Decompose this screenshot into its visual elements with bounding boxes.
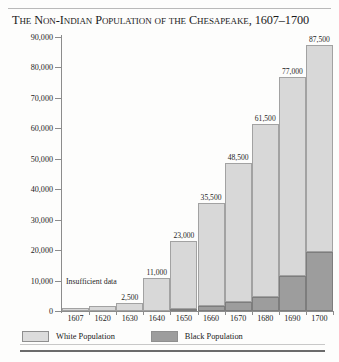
- bar-total-value-label: 2,500: [120, 293, 139, 302]
- y-axis-tick-label: 70,000: [9, 93, 53, 102]
- bar-group: 70023,000: [170, 37, 197, 311]
- x-axis-labels: 1607162016301640165016601670168016901700: [62, 314, 333, 330]
- bar-segment-black-population: [225, 302, 252, 311]
- bar-total-value-label: 87,500: [308, 35, 331, 44]
- x-axis-tick-label: 1690: [284, 314, 300, 323]
- y-axis-tick-mark: [55, 98, 62, 99]
- bar-segment-black-population: [252, 297, 279, 311]
- bar-group: 1,70035,500: [198, 37, 225, 311]
- y-axis-tick-label: 20,000: [9, 246, 53, 255]
- x-axis-tick-label: 1640: [149, 314, 165, 323]
- y-axis-tick-mark: [55, 128, 62, 129]
- bar-series-container: 2,50011,00070023,0001,70035,5003,00048,5…: [62, 37, 333, 311]
- bar-group: 19,50087,500: [306, 37, 333, 311]
- bar-segment-white-population: [252, 124, 279, 298]
- bar-group: [89, 37, 116, 311]
- bar-segment-white-population: [170, 241, 197, 309]
- x-axis-tick-label: 1660: [203, 314, 219, 323]
- y-axis-tick-label: 80,000: [9, 63, 53, 72]
- bar-total-value-label: 23,000: [172, 231, 195, 240]
- bar-segment-white-population: [89, 306, 116, 311]
- chart-figure: The Non-Indian Population of the Chesape…: [0, 0, 339, 362]
- bar-group: [62, 37, 89, 311]
- legend-item-white: White Population: [22, 331, 115, 342]
- bar-segment-black-population: [279, 276, 306, 311]
- y-axis-tick-label: 60,000: [9, 124, 53, 133]
- y-axis-tick-mark: [55, 220, 62, 221]
- bar-group: 11,50077,000: [279, 37, 306, 311]
- legend-label-white: White Population: [56, 332, 115, 341]
- white-population-swatch-icon: [22, 331, 49, 342]
- bar-segment-white-population: [279, 77, 306, 276]
- y-axis-tick-label: 10,000: [9, 276, 53, 285]
- y-axis-tick-label: 50,000: [9, 154, 53, 163]
- legend-item-black: Black Population: [151, 331, 243, 342]
- y-axis-tick-label: 0: [9, 307, 53, 316]
- insufficient-data-annotation: Insufficient data: [66, 277, 117, 286]
- bar-segment-white-population: [306, 45, 333, 252]
- y-axis-tick-mark: [55, 281, 62, 282]
- chart-legend: White Population Black Population: [22, 330, 243, 343]
- bar-total-value-label: 61,500: [254, 114, 277, 123]
- bar-segment-black-population: [306, 252, 333, 311]
- bar-segment-white-population: [62, 308, 89, 311]
- x-axis-tick-label: 1630: [122, 314, 138, 323]
- y-axis-tick-mark: [55, 189, 62, 190]
- bottom-divider: [20, 350, 325, 352]
- x-axis-tick-mark: [333, 311, 334, 315]
- y-axis-tick-mark: [55, 37, 62, 38]
- y-axis-tick-label: 30,000: [9, 215, 53, 224]
- legend-divider: [20, 344, 325, 345]
- y-axis-tick-label: 90,000: [9, 33, 53, 42]
- bar-total-value-label: 77,000: [281, 67, 304, 76]
- bar-group: 2,500: [116, 37, 143, 311]
- x-axis-tick-label: 1670: [230, 314, 246, 323]
- bar-segment-black-population: [170, 309, 197, 311]
- y-axis-tick-label: 40,000: [9, 185, 53, 194]
- y-axis-tick-mark: [55, 311, 62, 312]
- bar-group: 4,50061,500: [252, 37, 279, 311]
- bar-total-value-label: 11,000: [146, 268, 169, 277]
- bar-group: 3,00048,500: [225, 37, 252, 311]
- y-axis-tick-mark: [55, 67, 62, 68]
- x-axis-line: [61, 311, 333, 312]
- chart-title: The Non-Indian Population of the Chesape…: [12, 13, 332, 28]
- y-axis-labels: 010,00020,00030,00040,00050,00060,00070,…: [5, 0, 53, 362]
- legend-label-black: Black Population: [185, 332, 243, 341]
- black-population-swatch-icon: [151, 331, 178, 342]
- x-axis-tick-label: 1650: [176, 314, 192, 323]
- bar-segment-black-population: [198, 306, 225, 311]
- bar-total-value-label: 35,500: [200, 193, 223, 202]
- bar-segment-white-population: [143, 278, 170, 311]
- x-axis-tick-label: 1607: [67, 314, 83, 323]
- x-axis-tick-label: 1680: [257, 314, 273, 323]
- bar-segment-white-population: [198, 203, 225, 306]
- y-axis-tick-mark: [55, 250, 62, 251]
- y-axis-tick-mark: [55, 159, 62, 160]
- bar-total-value-label: 48,500: [227, 153, 250, 162]
- bar-segment-white-population: [116, 303, 143, 311]
- bar-segment-white-population: [225, 163, 252, 302]
- x-axis-tick-label: 1620: [95, 314, 111, 323]
- bar-group: 11,000: [143, 37, 170, 311]
- x-axis-tick-label: 1700: [311, 314, 327, 323]
